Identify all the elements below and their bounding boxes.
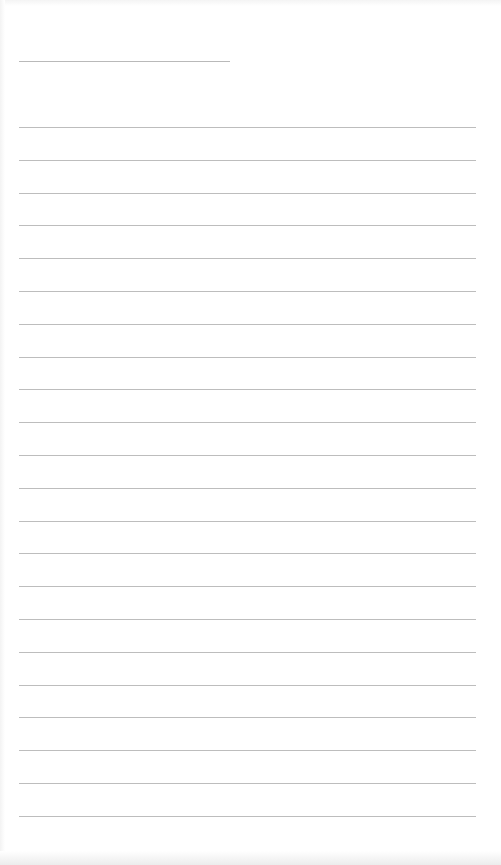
ruled-line <box>19 586 476 587</box>
ruled-line <box>19 193 476 194</box>
ruled-line <box>19 717 476 718</box>
ruled-line <box>19 291 476 292</box>
ruled-line <box>19 553 476 554</box>
ruled-line <box>19 324 476 325</box>
ruled-line <box>19 652 476 653</box>
ruled-line <box>19 816 476 817</box>
ruled-line <box>19 422 476 423</box>
paper-bottom-edge <box>0 851 501 865</box>
paper-top-edge <box>0 0 501 6</box>
ruled-line <box>19 357 476 358</box>
ruled-line <box>19 619 476 620</box>
ruled-line <box>19 488 476 489</box>
ruled-line <box>19 783 476 784</box>
ruled-line <box>19 127 476 128</box>
lined-paper-page <box>0 0 501 865</box>
paper-left-edge <box>0 0 5 865</box>
ruled-line <box>19 455 476 456</box>
ruled-line <box>19 685 476 686</box>
ruled-line <box>19 225 476 226</box>
ruled-line <box>19 258 476 259</box>
ruled-line <box>19 160 476 161</box>
ruled-line <box>19 750 476 751</box>
header-title-line <box>19 61 230 62</box>
ruled-line <box>19 389 476 390</box>
ruled-line <box>19 521 476 522</box>
